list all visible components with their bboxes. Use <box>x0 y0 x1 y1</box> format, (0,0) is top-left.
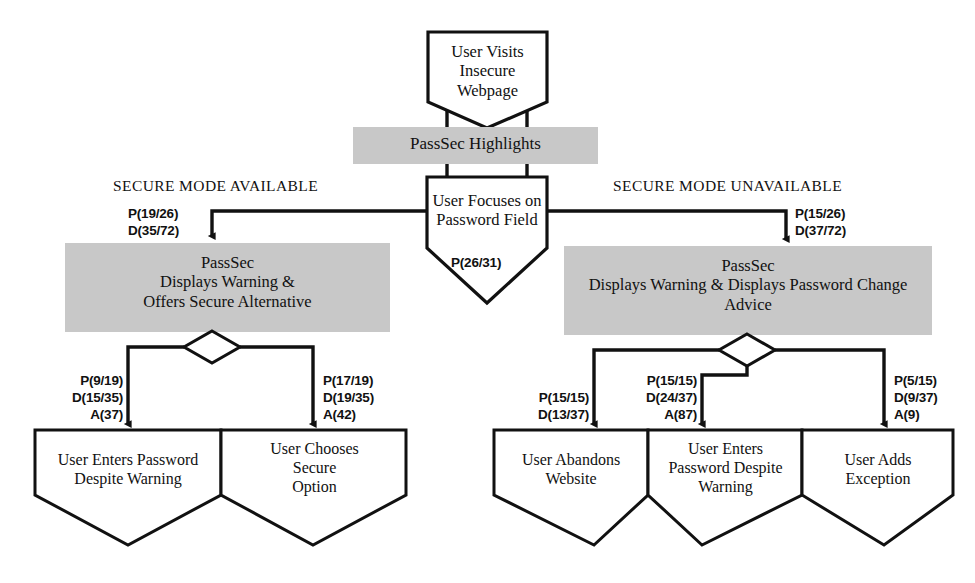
decision-diamond-right <box>719 334 775 366</box>
edge-label-to-secure-available: P(19/26) D(35/72) <box>128 206 179 240</box>
branch-label-secure-mode-unavailable: SECURE MODE UNAVAILABLE <box>613 177 842 195</box>
diagram-shapes-layer <box>0 0 975 583</box>
connector-to-secure-available <box>212 211 427 236</box>
node-leaf-choose-secure-shape <box>221 430 406 545</box>
connector-to-secure-unavailable <box>547 211 786 239</box>
edge-label-to-add-exception: P(5/15) D(9/37) A(9) <box>894 373 938 424</box>
edge-label-focus-self: P(26/31) <box>451 255 501 272</box>
edge-label-to-enter-despite-left: P(9/19) D(15/35) A(37) <box>38 373 123 424</box>
branch-label-secure-mode-available: SECURE MODE AVAILABLE <box>113 177 318 195</box>
node-leaf-abandon-shape <box>494 430 648 545</box>
flow-diagram: User Visits Insecure Webpage PassSec Hig… <box>0 0 975 583</box>
node-leaf-enter-despite-left-shape <box>35 430 221 545</box>
edge-label-to-abandon: P(15/15) D(13/37) <box>504 390 589 424</box>
node-highlights-shape <box>353 127 598 164</box>
node-leaf-add-exception-shape <box>802 430 953 545</box>
node-focus-shape <box>427 177 547 303</box>
edge-label-to-choose-secure: P(17/19) D(19/35) A(42) <box>323 373 374 424</box>
node-secure-unavailable-shape <box>564 246 932 335</box>
node-leaf-enter-despite-right-shape <box>648 430 802 545</box>
node-secure-available-shape <box>65 243 390 332</box>
connector-to-choose-secure <box>240 347 313 424</box>
edge-label-to-enter-despite-right: P(15/15) D(24/37) A(87) <box>612 373 697 424</box>
connector-to-enter-despite-left <box>128 347 184 424</box>
decision-diamond-left <box>184 331 240 363</box>
connector-to-enter-despite-right <box>702 364 747 424</box>
connector-to-add-exception <box>775 350 884 424</box>
edge-label-to-secure-unavailable: P(15/26) D(37/72) <box>795 206 846 240</box>
